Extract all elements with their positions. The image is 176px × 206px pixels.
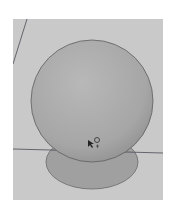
3d-viewport[interactable] xyxy=(13,19,163,200)
scene-canvas[interactable] xyxy=(13,19,163,200)
axis-line-vertical xyxy=(13,19,27,64)
move-cursor-icon xyxy=(86,134,106,152)
